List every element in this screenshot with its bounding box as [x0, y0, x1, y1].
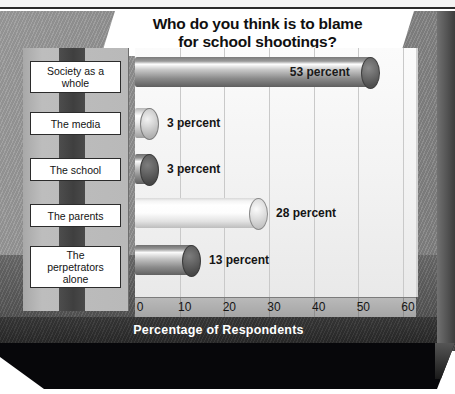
x-tick-label-40: 40 [312, 300, 325, 314]
category-label-society: Society as a whole [30, 61, 121, 93]
category-label-perpetrators-line3: alone [47, 273, 104, 285]
bar-value-label-the-school: 3 percent [167, 162, 220, 176]
x-tick-label-60: 60 [401, 300, 414, 314]
chart-root: Who do you think is to blame for school … [0, 0, 455, 394]
page-title: Who do you think is to blame for school … [153, 15, 363, 53]
bar-end-cap [249, 198, 268, 230]
x-tick-label-0: 0 [137, 300, 144, 314]
x-axis-title-band: Percentage of Respondents [0, 317, 437, 343]
plot-area: 53 percent3 percent3 percent28 percent13… [135, 48, 418, 297]
x-axis: 0102030405060 [135, 297, 416, 318]
x-tick-label-10: 10 [178, 300, 191, 314]
category-label-school: The school [30, 158, 121, 181]
category-label-perpetrators-line1: The [47, 249, 104, 261]
bar-the-parents [135, 198, 260, 228]
bar-the-school [135, 154, 151, 184]
title-line-1: Who do you think is to blame [153, 15, 363, 33]
bar-end-cap [182, 245, 201, 277]
top-clipped-strip [0, 0, 455, 9]
base-plinth-3d [0, 343, 455, 389]
gridline-60 [403, 48, 404, 297]
category-label-society-line2: whole [47, 77, 104, 89]
bar-end-cap [140, 154, 159, 186]
category-label-parents: The parents [30, 204, 121, 227]
bar-value-label-the-media: 3 percent [167, 116, 220, 130]
x-tick-label-20: 20 [223, 300, 236, 314]
category-label-column: Society as a whole The media The school … [23, 48, 129, 311]
plinth-bevel [435, 343, 455, 379]
bar-the-media [135, 108, 151, 138]
bar-body [135, 198, 260, 228]
bar-value-label-the-perpetrators-alone: 13 percent [209, 253, 269, 267]
x-axis-title: Percentage of Respondents [133, 323, 303, 337]
category-label-perpetrators: The perpetrators alone [30, 246, 121, 288]
bar-value-label-the-parents: 28 percent [276, 206, 336, 220]
x-tick-label-50: 50 [357, 300, 370, 314]
x-tick-label-30: 30 [267, 300, 280, 314]
bar-end-cap [361, 57, 380, 89]
category-label-perpetrators-line2: perpetrators [47, 261, 104, 273]
bar-value-label-society-as-a-whole: 53 percent [290, 65, 350, 79]
category-label-society-line1: Society as a [47, 65, 104, 77]
horizontal-rule [0, 7, 455, 9]
category-label-media: The media [30, 112, 121, 135]
clipped-header-text [150, 0, 330, 7]
right-wall-3d [437, 11, 455, 343]
bar-end-cap [140, 108, 159, 140]
bar-the-perpetrators-alone [135, 245, 193, 275]
